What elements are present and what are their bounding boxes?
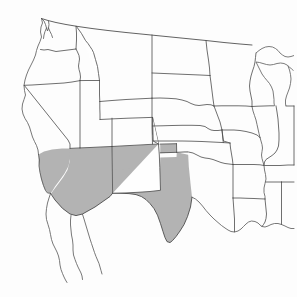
united-states-map	[0, 0, 297, 297]
northdakota-east-border	[206, 41, 210, 76]
nevada-arizona-border	[70, 148, 80, 149]
nebraska-east-border	[214, 106, 222, 130]
minnesota-iowa-border	[214, 106, 252, 107]
oklahoma-panhandle-south	[160, 152, 176, 153]
illinois-east-border	[264, 106, 279, 166]
gulf-coastline	[192, 197, 294, 232]
arkansas-louisiana-border	[233, 198, 265, 199]
nebraska-kansas-border	[153, 125, 223, 130]
highlight-texas-panhandle	[160, 144, 177, 153]
canada-border	[42, 19, 253, 46]
kansas-oklahoma-border	[153, 141, 230, 143]
iowa-missouri-border	[222, 130, 260, 138]
washington-oregon-border	[41, 49, 77, 52]
lake-superior-shore	[256, 47, 294, 58]
illinois-wisconsin-border	[252, 106, 274, 107]
washington-idaho-border	[76, 26, 77, 49]
wyoming-colorado-border	[100, 117, 152, 119]
oregon-south-border	[24, 81, 80, 86]
oklahoma-east-border	[230, 143, 233, 165]
tennessee-north-border	[265, 165, 294, 166]
gulf-of-california-west	[71, 216, 83, 280]
gulf-of-california-east	[83, 214, 103, 274]
iowa-east-border	[252, 107, 260, 138]
louisiana-west-border	[233, 198, 235, 232]
missouri-arkansas-border	[233, 165, 264, 166]
lake-michigan-east-shore	[286, 66, 292, 106]
montana-wyoming-border	[100, 98, 152, 101]
oregon-idaho-border	[76, 49, 81, 81]
missouri-east-border	[260, 138, 264, 166]
dakota-border	[152, 73, 210, 76]
map-container: United States distribution map Southwest…	[0, 0, 297, 297]
southdakota-east-border	[210, 76, 214, 107]
southdakota-nebraska-border	[152, 98, 214, 106]
lake-michigan-west-shore	[256, 62, 275, 106]
california-nevada-border	[24, 85, 70, 148]
minnesota-wisconsin-border	[250, 53, 257, 107]
louisiana-east-border	[262, 199, 267, 227]
